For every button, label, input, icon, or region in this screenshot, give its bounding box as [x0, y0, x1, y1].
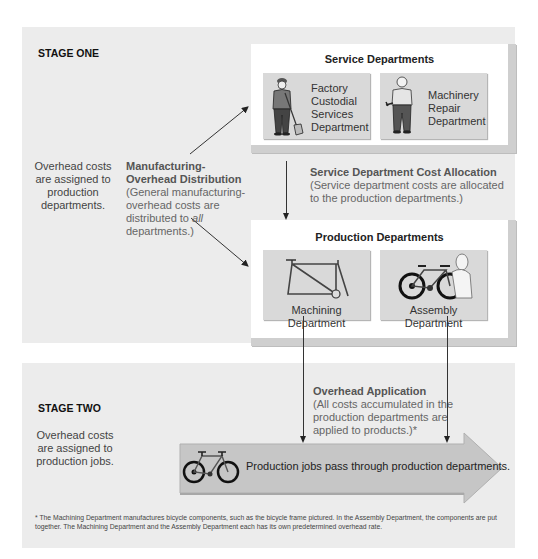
- stage-two-title: STAGE TWO: [38, 402, 101, 414]
- bicycle-icon: [182, 448, 242, 484]
- overhead-application-note: Overhead Application (All costs accumula…: [313, 385, 473, 437]
- application-heading: Overhead Application: [313, 385, 426, 397]
- machining-application-line-lower: [303, 363, 304, 436]
- assembly-application-line-lower: [447, 363, 448, 436]
- footnote: * The Machining Department manufactures …: [35, 513, 505, 531]
- flow-arrow-label: Production jobs pass through production …: [246, 460, 510, 472]
- application-text: (All costs accumulated in the production…: [313, 398, 473, 437]
- stage-two-side-note: Overhead costs are assigned to productio…: [30, 429, 120, 468]
